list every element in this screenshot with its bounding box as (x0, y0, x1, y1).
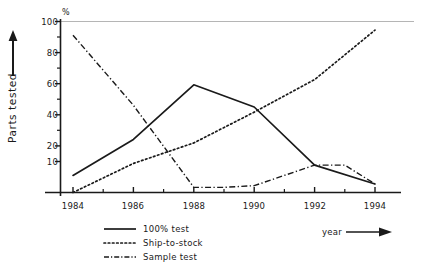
legend-swatch-dash-dot (104, 252, 136, 262)
legend-item-sample-test: Sample test (104, 250, 274, 264)
legend-label-sample-test: Sample test (143, 252, 197, 262)
series-line-100-percent-test (73, 85, 375, 184)
legend-swatch-solid (104, 224, 136, 234)
chart-legend: 100% test Ship-to-stock Sample test (104, 222, 274, 264)
series-line-ship-to-stock (73, 30, 375, 192)
chart-figure: % Parts tested 100 80 60 40 20 10 1984 1… (0, 0, 421, 272)
legend-label-ship-to-stock: Ship-to-stock (143, 238, 203, 248)
x-axis-title-block: year (322, 227, 392, 237)
x-axis-title: year (322, 227, 342, 237)
legend-item-ship-to-stock: Ship-to-stock (104, 236, 274, 250)
legend-swatch-dotted (104, 238, 136, 248)
legend-item-100-percent-test: 100% test (104, 222, 274, 236)
x-axis-arrow-icon (346, 227, 392, 237)
series-line-sample-test (73, 35, 375, 187)
legend-label-100-percent-test: 100% test (143, 224, 189, 234)
